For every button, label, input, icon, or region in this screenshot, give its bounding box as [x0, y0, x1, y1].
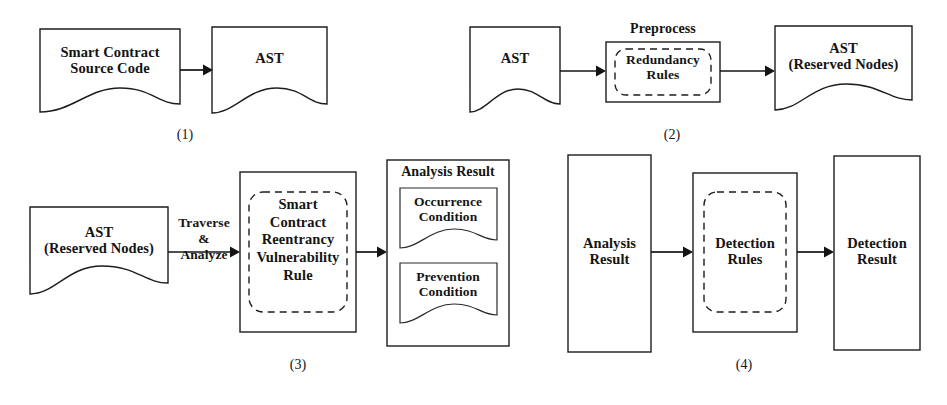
node-rule-box[interactable] [240, 172, 356, 332]
node-ast-2[interactable] [470, 27, 560, 112]
node-ast-reserved-nodes-2[interactable] [775, 26, 912, 110]
arrow-head-p2-a [596, 66, 606, 77]
node-ast-1[interactable] [212, 27, 327, 113]
node-analysis-result-4[interactable] [568, 155, 651, 352]
arrow-head-p4-b [824, 247, 834, 258]
arrow-head-p3-b [377, 247, 387, 258]
node-prevention-condition[interactable] [400, 263, 497, 323]
node-occurrence-condition[interactable] [400, 188, 497, 248]
arrow-head-p3-a [230, 247, 240, 258]
node-ast-reserved-nodes-3[interactable] [30, 207, 168, 294]
node-detection-result[interactable] [834, 156, 920, 350]
node-redundancy-rules[interactable] [615, 49, 711, 95]
arrow-head-p4-a [683, 247, 693, 258]
node-detection-rules-box[interactable] [693, 173, 797, 332]
figure-canvas: Smart Contract Source Code AST (1) AST P… [0, 0, 947, 405]
arrow-head-p2-b [765, 66, 775, 77]
node-smart-contract-source-code[interactable] [40, 29, 180, 112]
